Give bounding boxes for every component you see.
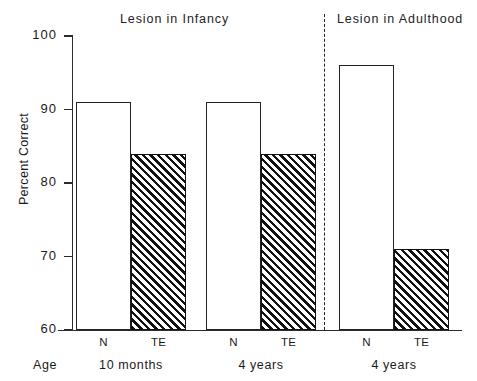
- group-label-0: 10 months: [99, 358, 163, 372]
- bar-te-1: [131, 154, 186, 330]
- bar-te-3: [261, 154, 316, 330]
- bar-te-5: [394, 249, 449, 330]
- x-axis-prefix-label: Age: [33, 358, 57, 372]
- chart-figure: Lesion in Infancy Lesion in Adulthood Pe…: [0, 0, 477, 381]
- category-label-n-2: N: [229, 336, 238, 348]
- bar-n-4: [339, 65, 394, 330]
- category-label-n-4: N: [362, 336, 371, 348]
- bar-n-0: [76, 102, 131, 330]
- category-label-n-0: N: [99, 336, 108, 348]
- bar-n-2: [206, 102, 261, 330]
- category-label-te-1: TE: [151, 336, 166, 348]
- group-label-1: 4 years: [238, 358, 283, 372]
- panel-divider-dashed: [324, 14, 325, 330]
- category-label-te-3: TE: [281, 336, 296, 348]
- category-label-te-5: TE: [414, 336, 429, 348]
- plot-area: [0, 0, 477, 381]
- group-label-2: 4 years: [371, 358, 416, 372]
